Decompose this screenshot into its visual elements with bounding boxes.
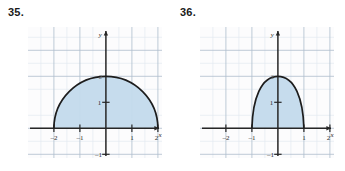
problem-number-36: 36. [180, 6, 196, 18]
graph-36: –2 –1 1 2 1 –1 2 y x [200, 27, 334, 158]
graph-svg-35: –2 –1 1 2 1 –1 2 y x [28, 27, 162, 158]
ytick-label-neg1: –1 [94, 151, 103, 158]
x-axis-label: x [329, 131, 334, 139]
xtick-label-1: 1 [302, 134, 306, 142]
xtick-label-1: 1 [130, 134, 134, 142]
xtick-label-neg1: –1 [75, 134, 84, 142]
worksheet-page: 35. [0, 0, 345, 171]
peak-label: 2 [99, 73, 102, 80]
problem-number-35: 35. [8, 6, 24, 18]
xtick-label-neg2: –2 [49, 134, 58, 142]
problem-35: 35. [0, 0, 172, 171]
xtick-label-neg2: –2 [221, 134, 230, 142]
graph-35: –2 –1 1 2 1 –1 2 y x [28, 27, 162, 158]
problem-36: 36. [172, 0, 344, 171]
ytick-label-1: 1 [98, 99, 102, 107]
graph-svg-36: –2 –1 1 2 1 –1 2 y x [200, 27, 334, 158]
ytick-label-1: 1 [270, 99, 274, 107]
ytick-label-neg1: –1 [266, 151, 275, 158]
xtick-label-neg1: –1 [247, 134, 256, 142]
peak-label: 2 [271, 73, 274, 80]
x-axis-label: x [157, 131, 162, 139]
